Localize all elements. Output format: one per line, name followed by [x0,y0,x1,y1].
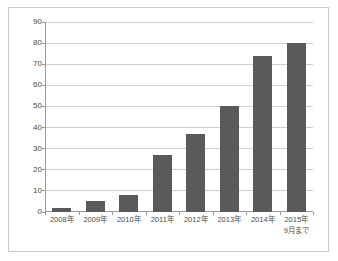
x-axis-tick-label: 2013年 [213,214,247,236]
y-axis-tick-label: 50 [12,102,42,110]
x-axis-tick-label: 2015年9月まで [280,214,314,236]
x-axis-label-line1: 2011年 [151,215,174,224]
x-axis-label-line1: 2015年 [284,215,308,224]
bar-slot [146,22,180,212]
bar [119,195,138,212]
bar-slot [246,22,280,212]
x-axis-label-line1: 2010年 [117,215,141,224]
x-axis-tick-label: 2010年 [112,214,146,236]
bar-slot [280,22,314,212]
x-axis-label-line2: 9月まで [280,225,314,236]
y-axis-tick-label: 30 [12,145,42,153]
y-axis-tick-label: 90 [12,18,42,26]
bar [287,43,306,212]
x-axis-label-line1: 2008年 [50,215,74,224]
x-axis-labels: 2008年2009年2010年2011年2012年2013年2014年2015年… [45,214,313,236]
y-axis-tick-label: 60 [12,81,42,89]
x-axis-label-line1: 2014年 [251,215,275,224]
bar [253,56,272,212]
bar-series [45,22,313,212]
y-axis-tick-label: 40 [12,124,42,132]
y-axis-tick-label: 70 [12,60,42,68]
bar [153,155,172,212]
bar-slot [45,22,79,212]
bar [86,201,105,212]
bar [186,134,205,212]
y-axis-labels: 0102030405060708090 [9,22,42,212]
x-axis-tick-mark [313,212,314,215]
bar-slot [112,22,146,212]
x-axis-tick-label: 2012年 [179,214,213,236]
x-axis-tick-label: 2009年 [79,214,113,236]
bar-slot [179,22,213,212]
bar [220,106,239,212]
y-axis-tick-label: 10 [12,187,42,195]
chart-frame: 0102030405060708090 2008年2009年2010年2011年… [8,7,329,252]
bar-slot [213,22,247,212]
bar-slot [79,22,113,212]
x-axis-label-line1: 2009年 [83,215,107,224]
y-axis-tick-label: 0 [12,208,42,216]
x-axis-tick-label: 2014年 [246,214,280,236]
x-axis-label-line1: 2013年 [217,215,241,224]
x-axis-tick-label: 2011年 [146,214,180,236]
y-axis-tick-label: 20 [12,166,42,174]
y-axis-tick-label: 80 [12,39,42,47]
x-axis-tick-label: 2008年 [45,214,79,236]
x-axis-label-line1: 2012年 [184,215,208,224]
